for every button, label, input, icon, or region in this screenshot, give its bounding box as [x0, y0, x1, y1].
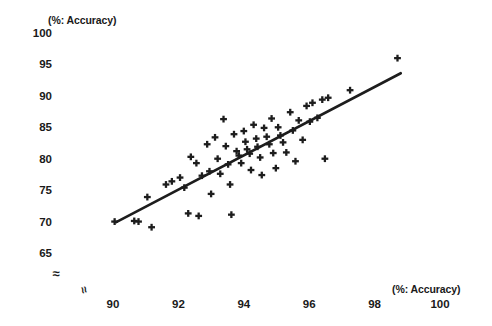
data-point-marker	[204, 141, 211, 148]
data-point-marker	[325, 94, 332, 101]
data-point-marker	[275, 124, 282, 131]
data-point-marker	[195, 213, 202, 220]
data-point-marker	[319, 96, 326, 103]
data-point-marker	[135, 218, 142, 225]
data-point-marker	[283, 149, 290, 156]
data-point-marker	[185, 210, 192, 217]
data-point-marker	[250, 121, 257, 128]
data-point-marker	[177, 174, 184, 181]
data-point-marker	[261, 125, 268, 132]
data-point-marker	[268, 115, 275, 122]
data-point-marker	[220, 116, 227, 123]
data-point-marker	[347, 87, 354, 94]
data-point-marker	[295, 117, 302, 124]
data-points	[111, 55, 401, 231]
data-point-marker	[193, 160, 200, 167]
data-point-marker	[303, 103, 310, 110]
data-point-marker	[222, 143, 229, 150]
data-point-marker	[163, 181, 170, 188]
data-point-marker	[228, 211, 235, 218]
data-point-marker	[258, 172, 265, 179]
data-point-marker	[217, 170, 224, 177]
data-point-marker	[270, 150, 277, 157]
data-point-marker	[231, 131, 238, 138]
data-point-marker	[292, 158, 299, 165]
data-point-marker	[248, 167, 255, 174]
data-point-marker	[240, 128, 247, 135]
data-point-marker	[280, 139, 287, 146]
chart-container: (%: Accuracy) (%: Accuracy) 657075808590…	[0, 0, 492, 326]
data-point-marker	[168, 178, 175, 185]
data-point-marker	[208, 191, 215, 198]
data-point-marker	[272, 165, 279, 172]
data-point-marker	[212, 134, 219, 141]
plot-area	[0, 0, 492, 326]
data-point-marker	[214, 155, 221, 162]
data-point-marker	[144, 194, 151, 201]
data-point-marker	[394, 55, 401, 62]
data-point-marker	[111, 218, 118, 225]
data-point-marker	[253, 135, 260, 142]
data-point-marker	[148, 224, 155, 231]
data-point-marker	[263, 133, 270, 140]
data-point-marker	[227, 181, 234, 188]
data-point-marker	[287, 109, 294, 116]
data-point-marker	[238, 160, 245, 167]
data-point-marker	[242, 138, 249, 145]
data-point-marker	[187, 153, 194, 160]
data-point-marker	[309, 99, 316, 106]
data-point-marker	[321, 155, 328, 162]
data-point-marker	[299, 136, 306, 143]
data-point-marker	[257, 154, 264, 161]
